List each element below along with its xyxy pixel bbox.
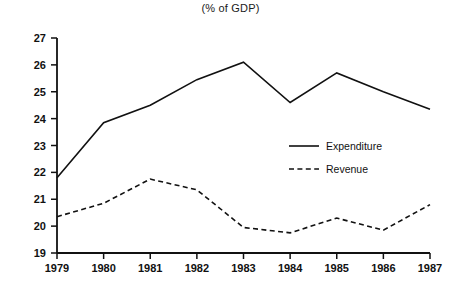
y-axis-tick-label: 27 [34, 32, 46, 44]
y-axis-tick-label: 21 [34, 193, 46, 205]
series-line-expenditure [57, 62, 430, 178]
x-axis-tick-label: 1985 [325, 262, 349, 274]
x-axis-tick-label: 1984 [278, 262, 303, 274]
x-axis-tick-label: 1980 [91, 262, 115, 274]
y-axis-tick-label: 19 [34, 247, 46, 259]
legend-label-expenditure: Expenditure [326, 140, 382, 152]
x-axis-tick-label: 1981 [138, 262, 162, 274]
x-axis-tick-label: 1987 [418, 262, 442, 274]
y-axis-tick-label: 23 [34, 140, 46, 152]
chart-plot-area: 272625242322212019 197919801981198219831… [0, 0, 461, 290]
chart-container: (% of GDP) 272625242322212019 1979198019… [0, 0, 461, 290]
y-axis-tick-label: 25 [34, 86, 46, 98]
chart-legend: ExpenditureRevenue [289, 140, 382, 175]
y-axis-tick-label: 20 [34, 220, 46, 232]
x-axis-tick-label: 1982 [185, 262, 209, 274]
x-axis-tick-label: 1979 [45, 262, 69, 274]
x-axis-tick-label: 1983 [231, 262, 255, 274]
legend-label-revenue: Revenue [326, 163, 368, 175]
y-axis: 272625242322212019 [34, 32, 57, 259]
y-axis-tick-label: 24 [34, 113, 47, 125]
series-line-revenue [57, 179, 430, 233]
x-axis: 197919801981198219831984198519861987 [45, 253, 442, 274]
y-axis-tick-label: 26 [34, 59, 46, 71]
x-axis-tick-label: 1986 [371, 262, 395, 274]
y-axis-tick-label: 22 [34, 166, 46, 178]
